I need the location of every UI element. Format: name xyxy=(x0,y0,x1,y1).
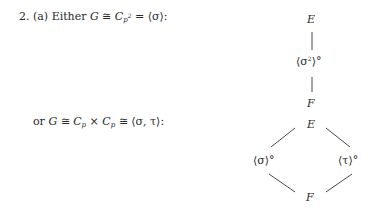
generator-sigma-tau: ⟨σ, τ⟩ xyxy=(131,115,160,128)
iso-symbol: ≅ xyxy=(61,115,70,128)
cyclic-c: C xyxy=(115,10,123,23)
diagram1-bottom-f: F xyxy=(307,98,315,109)
diagram2-left-sigma: ⟨σ⟩° xyxy=(253,155,275,166)
times-symbol: × xyxy=(90,115,99,128)
iso-symbol: ≅ xyxy=(102,10,111,23)
problem-number: 2. xyxy=(19,10,30,23)
cyclic-c2: C xyxy=(102,115,110,128)
diagram2-bottom-f: F xyxy=(306,192,314,203)
cyclic-c1: C xyxy=(73,115,81,128)
group-g: G xyxy=(48,115,57,128)
diagram2-top-e: E xyxy=(307,119,315,130)
diagram2-right-tau: ⟨τ⟩° xyxy=(338,155,358,166)
edge-e-to-sigma xyxy=(271,128,295,147)
equals-symbol: = xyxy=(135,10,144,23)
diagram1-top-e: E xyxy=(307,14,315,25)
case2-prefix: or xyxy=(33,115,45,128)
lattice-lines xyxy=(0,0,378,212)
group-g: G xyxy=(90,10,99,23)
edge-sigma-to-f xyxy=(269,174,295,192)
edge-tau-to-f xyxy=(326,174,352,192)
iso-symbol-2: ≅ xyxy=(119,115,128,128)
subscript-p: p2 xyxy=(123,16,131,24)
problem-part: (a) xyxy=(33,10,48,23)
problem-line-b: or G ≅ Cp × Cp ≅ ⟨σ, τ⟩: xyxy=(33,116,164,129)
problem-line-a: 2. (a) Either G ≅ Cp2 = ⟨σ⟩: xyxy=(19,11,168,24)
diagram1-middle-sigma2: ⟨σ2⟩° xyxy=(296,56,321,67)
generator-sigma: ⟨σ⟩ xyxy=(148,10,164,23)
case1-prefix: Either xyxy=(52,10,87,23)
edge-e-to-tau xyxy=(326,128,350,147)
